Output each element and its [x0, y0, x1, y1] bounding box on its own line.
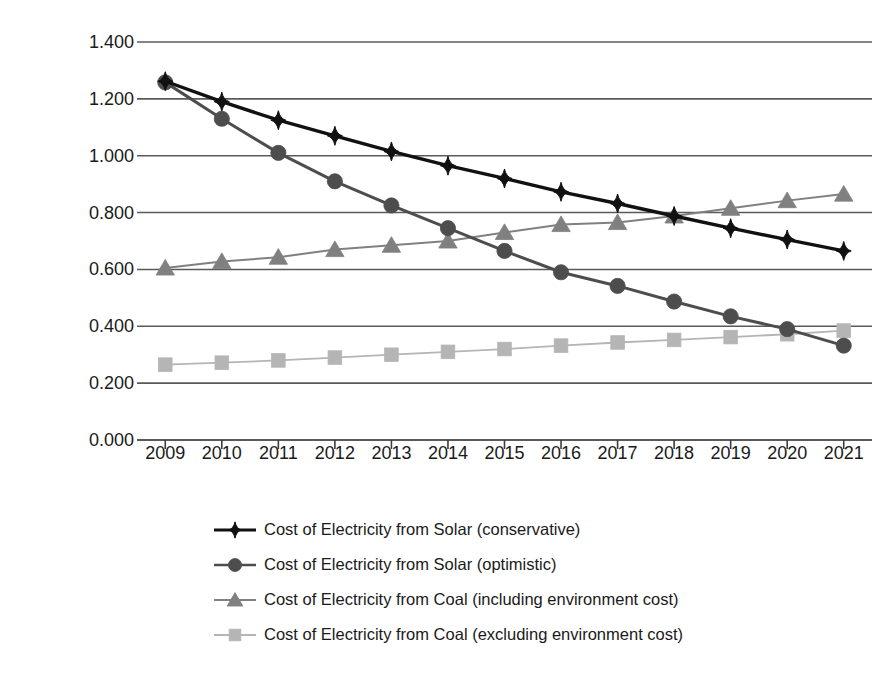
data-point-marker-circle	[610, 278, 625, 293]
data-point-marker-square	[611, 336, 625, 350]
data-point-marker-circle	[440, 221, 455, 236]
data-point-marker-diamond	[229, 521, 242, 537]
data-point-marker-diamond	[780, 230, 795, 249]
legend-item-label: Cost of Electricity from Coal (excluding…	[258, 625, 683, 644]
data-point-marker-circle	[228, 558, 241, 571]
data-point-marker-square	[554, 339, 568, 353]
data-point-marker-diamond	[497, 169, 512, 188]
gridlines	[137, 42, 872, 440]
series-line	[165, 82, 843, 345]
data-point-marker-diamond	[214, 92, 229, 111]
data-point-marker-diamond	[327, 126, 342, 145]
series-4	[158, 324, 850, 372]
legend-item-label: Cost of Electricity from Coal (including…	[258, 590, 678, 609]
legend-item[interactable]: Cost of Electricity from Coal (including…	[212, 582, 772, 617]
legend-marker-circle	[212, 554, 258, 576]
chart-figure: Cost per KWH / Yuan-kwh-1 0.0000.2000.40…	[0, 0, 894, 674]
data-point-marker-square	[158, 358, 172, 372]
legend-marker-triangle	[212, 589, 258, 611]
data-point-marker-circle	[271, 145, 286, 160]
data-point-marker-circle	[836, 338, 851, 353]
data-point-marker-diamond	[440, 156, 455, 175]
data-point-marker-diamond	[271, 111, 286, 130]
legend-marker-diamond	[212, 519, 258, 541]
data-point-marker-diamond	[384, 142, 399, 161]
legend-marker-square	[212, 624, 258, 646]
data-point-marker-diamond	[836, 241, 851, 260]
data-point-marker-square	[229, 629, 241, 641]
data-point-marker-square	[272, 354, 286, 368]
data-point-marker-circle	[327, 174, 342, 189]
data-point-marker-square	[837, 324, 851, 338]
data-point-marker-circle	[780, 322, 795, 337]
data-point-marker-circle	[384, 198, 399, 213]
legend-item[interactable]: Cost of Electricity from Coal (excluding…	[212, 617, 772, 652]
data-point-marker-square	[215, 356, 229, 370]
data-point-marker-circle	[214, 111, 229, 126]
data-point-marker-square	[385, 348, 399, 362]
data-point-marker-diamond	[554, 182, 569, 201]
data-point-marker-diamond	[723, 219, 738, 238]
data-point-marker-circle	[723, 309, 738, 324]
x-axis-tick-label: 2021	[809, 444, 879, 462]
data-point-marker-triangle	[835, 185, 853, 201]
data-point-marker-circle	[553, 265, 568, 280]
chart-legend: Cost of Electricity from Solar (conserva…	[212, 512, 772, 652]
data-point-marker-square	[724, 330, 738, 344]
legend-item-label: Cost of Electricity from Solar (optimist…	[258, 555, 556, 574]
data-point-marker-square	[328, 351, 342, 365]
legend-item-label: Cost of Electricity from Solar (conserva…	[258, 520, 580, 539]
data-point-marker-square	[498, 342, 512, 356]
legend-item[interactable]: Cost of Electricity from Solar (optimist…	[212, 547, 772, 582]
data-point-marker-circle	[497, 243, 512, 258]
x-axis-tick-labels: 2009201020112012201320142015201620172018…	[0, 444, 894, 478]
data-point-marker-circle	[667, 294, 682, 309]
data-point-marker-diamond	[610, 194, 625, 213]
series-2	[158, 75, 852, 353]
data-point-marker-square	[441, 345, 455, 359]
data-point-marker-square	[667, 333, 681, 347]
legend-item[interactable]: Cost of Electricity from Solar (conserva…	[212, 512, 772, 547]
